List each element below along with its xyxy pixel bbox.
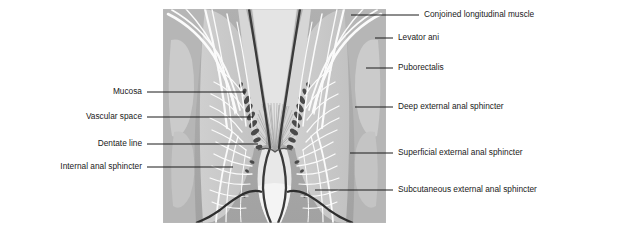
label-superficial-external-anal-sphincter: Superficial external anal sphincter xyxy=(398,148,523,156)
anatomy-figure: MucosaVascular spaceDentate lineInternal… xyxy=(0,0,621,233)
label-dentate-line: Dentate line xyxy=(98,139,142,147)
label-mucosa: Mucosa xyxy=(113,87,142,95)
illustration-panel xyxy=(163,9,386,223)
label-internal-anal-sphincter: Internal anal sphincter xyxy=(60,162,142,170)
label-conjoined-longitudinal-muscle: Conjoined longitudinal muscle xyxy=(424,10,534,18)
label-puborectalis: Puborectalis xyxy=(398,63,444,71)
label-deep-external-anal-sphincter: Deep external anal sphincter xyxy=(398,102,504,110)
label-subcutaneous-external-anal-sphincter: Subcutaneous external anal sphincter xyxy=(398,185,537,193)
label-vascular-space: Vascular space xyxy=(86,112,142,120)
label-levator-ani: Levator ani xyxy=(398,33,439,41)
